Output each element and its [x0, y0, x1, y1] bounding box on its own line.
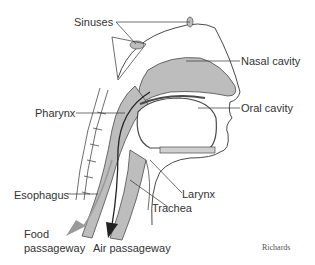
hyoid-jaw	[160, 147, 215, 153]
label-larynx: Larynx	[182, 188, 215, 200]
label-food-passageway-2: passageway	[24, 242, 85, 254]
label-pharynx: Pharynx	[35, 107, 75, 119]
illustrator-credit: Richards	[262, 243, 290, 252]
larynx-outline	[146, 160, 150, 210]
label-trachea: Trachea	[152, 202, 192, 214]
label-oral-cavity: Oral cavity	[241, 102, 293, 114]
oral-cavity-region	[137, 98, 216, 148]
label-air-passageway: Air passageway	[93, 242, 171, 254]
label-esophagus: Esophagus	[14, 189, 69, 201]
anatomy-illustration	[0, 0, 315, 265]
label-food-passageway-1: Food	[24, 228, 49, 240]
label-sinuses: Sinuses	[74, 16, 113, 28]
label-nasal-cavity: Nasal cavity	[241, 55, 300, 67]
